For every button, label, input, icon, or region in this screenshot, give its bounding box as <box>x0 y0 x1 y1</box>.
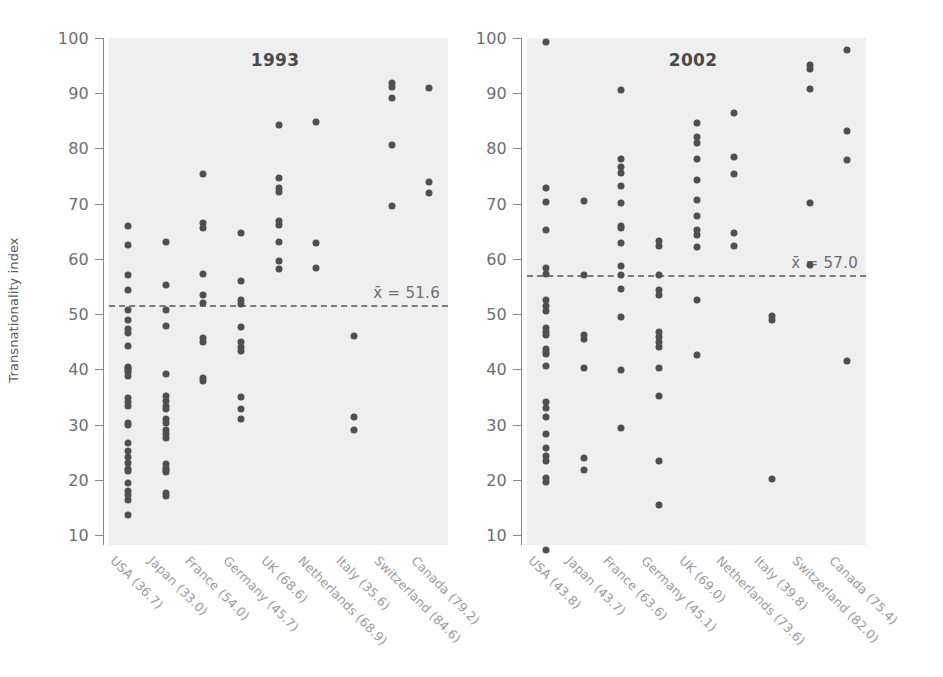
mean-label: x̄ = 51.6 <box>373 284 440 302</box>
y-tick <box>513 369 521 370</box>
y-tick-label: 90 <box>463 84 507 103</box>
data-point <box>275 189 282 196</box>
data-point <box>124 372 131 379</box>
data-point <box>542 478 549 485</box>
data-point <box>768 475 775 482</box>
data-point <box>162 281 169 288</box>
data-point <box>237 230 244 237</box>
data-point <box>350 426 357 433</box>
panel-title: 1993 <box>251 50 300 70</box>
data-point <box>275 266 282 273</box>
data-point <box>542 363 549 370</box>
data-point <box>731 230 738 237</box>
data-point <box>162 323 169 330</box>
data-point <box>124 242 131 249</box>
data-point <box>426 179 433 186</box>
y-tick-label: 10 <box>45 526 89 545</box>
data-point <box>162 239 169 246</box>
data-point <box>844 127 851 134</box>
mean-line <box>109 305 448 307</box>
data-point <box>350 413 357 420</box>
y-tick-label: 20 <box>45 470 89 489</box>
y-tick-label: 100 <box>463 29 507 48</box>
data-point <box>693 120 700 127</box>
y-tick <box>513 204 521 205</box>
data-point <box>124 306 131 313</box>
figure-root: Transnationality index 10090807060504030… <box>0 0 943 677</box>
data-point <box>542 307 549 314</box>
mean-label: x̄ = 57.0 <box>791 254 858 272</box>
data-point <box>618 200 625 207</box>
data-point <box>731 154 738 161</box>
data-point <box>162 434 169 441</box>
data-point <box>693 232 700 239</box>
data-point <box>124 342 131 349</box>
data-point <box>731 109 738 116</box>
data-point <box>618 272 625 279</box>
data-point <box>124 222 131 229</box>
data-point <box>542 227 549 234</box>
y-tick <box>95 38 103 39</box>
data-point <box>618 285 625 292</box>
data-point <box>124 272 131 279</box>
data-point <box>655 393 662 400</box>
y-tick-label: 70 <box>463 194 507 213</box>
data-point <box>618 424 625 431</box>
data-point <box>542 413 549 420</box>
y-tick <box>513 38 521 39</box>
data-point <box>388 202 395 209</box>
y-tick-label: 70 <box>45 194 89 213</box>
data-point <box>313 240 320 247</box>
data-point <box>693 177 700 184</box>
y-tick <box>513 425 521 426</box>
data-point <box>313 119 320 126</box>
data-point <box>542 404 549 411</box>
y-tick-label: 40 <box>463 360 507 379</box>
y-tick-label: 100 <box>45 29 89 48</box>
data-point <box>618 155 625 162</box>
data-point <box>124 511 131 518</box>
data-point <box>655 501 662 508</box>
data-point <box>693 139 700 146</box>
y-axis-spine <box>103 38 104 545</box>
y-tick <box>95 369 103 370</box>
data-point <box>162 469 169 476</box>
data-point <box>618 170 625 177</box>
y-tick <box>513 259 521 260</box>
data-point <box>124 422 131 429</box>
data-point <box>388 95 395 102</box>
data-point <box>542 445 549 452</box>
y-tick-label: 30 <box>463 415 507 434</box>
data-point <box>162 493 169 500</box>
data-point <box>768 317 775 324</box>
data-point <box>655 343 662 350</box>
data-point <box>350 333 357 340</box>
y-tick-label: 40 <box>45 360 89 379</box>
data-point <box>200 292 207 299</box>
data-point <box>580 467 587 474</box>
data-point <box>542 350 549 357</box>
data-point <box>162 371 169 378</box>
data-point <box>806 86 813 93</box>
data-point <box>693 197 700 204</box>
y-tick-label: 50 <box>463 305 507 324</box>
data-point <box>200 338 207 345</box>
data-point <box>731 170 738 177</box>
data-point <box>426 189 433 196</box>
data-point <box>200 224 207 231</box>
data-point <box>542 332 549 339</box>
y-tick <box>95 204 103 205</box>
data-point <box>237 393 244 400</box>
y-tick-label: 20 <box>463 470 507 489</box>
data-point <box>693 244 700 251</box>
data-point <box>388 83 395 90</box>
data-point <box>655 365 662 372</box>
y-tick <box>513 93 521 94</box>
y-axis-spine <box>521 38 522 545</box>
data-point <box>426 84 433 91</box>
data-point <box>542 458 549 465</box>
y-tick <box>95 425 103 426</box>
data-point <box>542 270 549 277</box>
data-point <box>275 257 282 264</box>
data-point <box>806 65 813 72</box>
